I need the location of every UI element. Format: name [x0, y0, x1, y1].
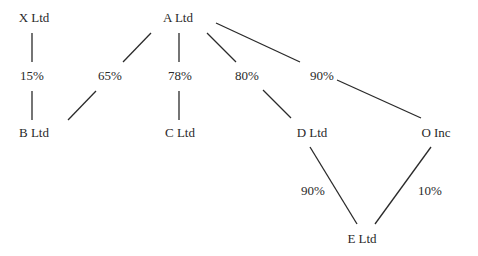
node-a-ltd: A Ltd [163, 10, 193, 25]
edge-label-a-c: 78% [168, 68, 192, 83]
node-c-ltd: C Ltd [165, 125, 195, 140]
edge-90pct-to-o [337, 80, 421, 118]
edge-label-a-o: 90% [310, 68, 334, 83]
edge-label-a-b: 65% [98, 68, 122, 83]
edge-65pct-to-b [68, 91, 96, 120]
node-x-ltd: X Ltd [19, 10, 50, 25]
edge-label-o-e: 10% [418, 183, 442, 198]
node-o-inc: O Inc [421, 125, 450, 140]
edge-label-x-b: 15% [20, 68, 44, 83]
edge-lines [32, 23, 431, 224]
node-e-ltd: E Ltd [347, 231, 377, 246]
edge-label-a-d: 80% [235, 68, 259, 83]
edge-a-to-90pct [216, 23, 300, 62]
edge-a-to-65pct [123, 33, 151, 62]
ownership-diagram: X Ltd A Ltd B Ltd C Ltd D Ltd O Inc E Lt… [0, 0, 478, 256]
edge-a-to-80pct [207, 33, 236, 62]
edge-80pct-to-d [263, 90, 291, 118]
nodes: X Ltd A Ltd B Ltd C Ltd D Ltd O Inc E Lt… [19, 10, 451, 246]
edge-label-d-e: 90% [301, 183, 325, 198]
node-b-ltd: B Ltd [19, 125, 49, 140]
edge-labels: 15% 65% 78% 80% 90% 90% 10% [20, 68, 442, 198]
node-d-ltd: D Ltd [297, 125, 328, 140]
